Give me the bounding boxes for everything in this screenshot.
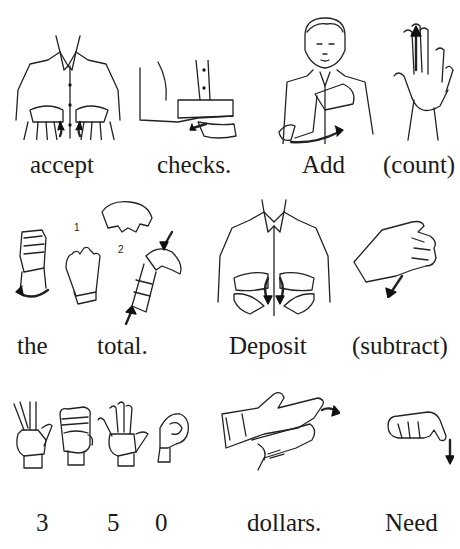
deposit-sign-illustration [210,196,340,316]
need-sign-illustration [384,408,454,478]
word-label: accept [30,152,94,177]
number-3-handshape [10,400,54,470]
word-label: Add [302,152,345,177]
digit-label: 5 [107,510,120,535]
digit-label: 0 [155,510,168,535]
total-sign-illustration [60,196,190,326]
subtract-sign-illustration [352,218,442,298]
word-label: (subtract) [352,333,448,358]
digit-label: 3 [36,510,49,535]
word-label: the [17,333,48,358]
word-label: Need [385,510,438,535]
word-label: (count) [383,152,455,177]
the-sign-illustration [14,228,50,300]
checks-sign-illustration [138,60,238,145]
word-label: dollars. [247,510,321,535]
number-0-handshape-open [96,400,150,468]
word-label: checks. [157,152,231,177]
word-label: total. [97,333,148,358]
number-0-handshape [154,408,192,464]
dollars-sign-illustration [218,388,340,472]
word-label: Deposit [229,333,307,358]
accept-sign-illustration [8,30,128,140]
number-5-handshape [58,405,94,467]
add-sign-illustration [265,14,385,144]
count-sign-illustration [390,22,455,142]
